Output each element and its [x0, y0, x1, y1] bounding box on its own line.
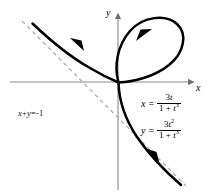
equation-y-equals: =: [148, 125, 154, 136]
equation-x-numerator: 3t: [163, 93, 174, 103]
equation-y-fraction: 3t2 1 + t3: [157, 120, 181, 141]
asymptote-label-value: =-1: [31, 108, 43, 118]
equation-x-equals: =: [148, 98, 154, 109]
loop-branch: [117, 18, 184, 83]
equation-y-denominator: 1 + t3: [157, 131, 181, 141]
folium-of-descartes-figure: y x x+y=-1 x = 3t 1 + t3 y = 3t2 1 + t3: [0, 0, 222, 195]
equation-x-den-one: 1: [159, 103, 164, 113]
equation-y-num-exp: 2: [171, 118, 174, 124]
x-axis-label: x: [196, 83, 200, 93]
equation-y-den-exp: 3: [176, 129, 179, 135]
equation-x-lhs: x: [141, 98, 145, 109]
direction-arrow-upper-left-icon: [70, 38, 84, 51]
equation-x: x = 3t 1 + t3: [141, 93, 181, 114]
upper-left-branch: [33, 24, 119, 83]
equation-y-den-one: 1: [159, 130, 164, 140]
equation-y-den-plus: +: [166, 130, 171, 140]
equation-x-num-var: t: [170, 92, 173, 102]
equation-y-lhs: y: [141, 125, 145, 136]
equation-x-denominator: 1 + t3: [157, 104, 181, 114]
equation-y-numerator: 3t2: [162, 120, 176, 130]
asymptote-label: x+y=-1: [18, 108, 43, 118]
y-axis-label: y: [106, 8, 110, 18]
direction-arrow-loop-icon: [136, 29, 152, 41]
equation-y: y = 3t2 1 + t3: [141, 120, 181, 141]
equation-x-fraction: 3t 1 + t3: [157, 93, 181, 114]
curve-plot: [0, 0, 222, 195]
equation-x-den-plus: +: [166, 103, 171, 113]
equation-x-den-exp: 3: [176, 102, 179, 108]
